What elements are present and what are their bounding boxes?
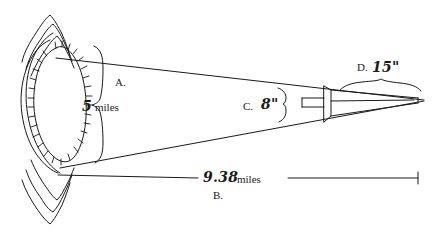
label-miles-a: miles [95,102,119,113]
label-distance-value: 9.38 [203,170,238,184]
label-d: D. [357,62,368,73]
label-five: 5 [82,99,92,113]
label-b: B. [213,190,223,201]
curly-brace-horizontal-icon [340,79,421,91]
label-miles-b: miles [237,174,261,185]
curly-brace-vertical-icon [278,88,286,122]
eyepiece-wedge [331,90,418,116]
label-a: A. [115,77,126,88]
figure-canvas: A. B. 5 miles C. 8" D. 15" 9.38 miles [0,0,445,234]
label-fifteen-inches: 15" [372,60,400,74]
label-c: C. [243,101,253,112]
lens-plate-icon [302,86,331,122]
label-eight-inches: 8" [261,97,279,111]
ridge-chevron-icon [22,160,74,224]
